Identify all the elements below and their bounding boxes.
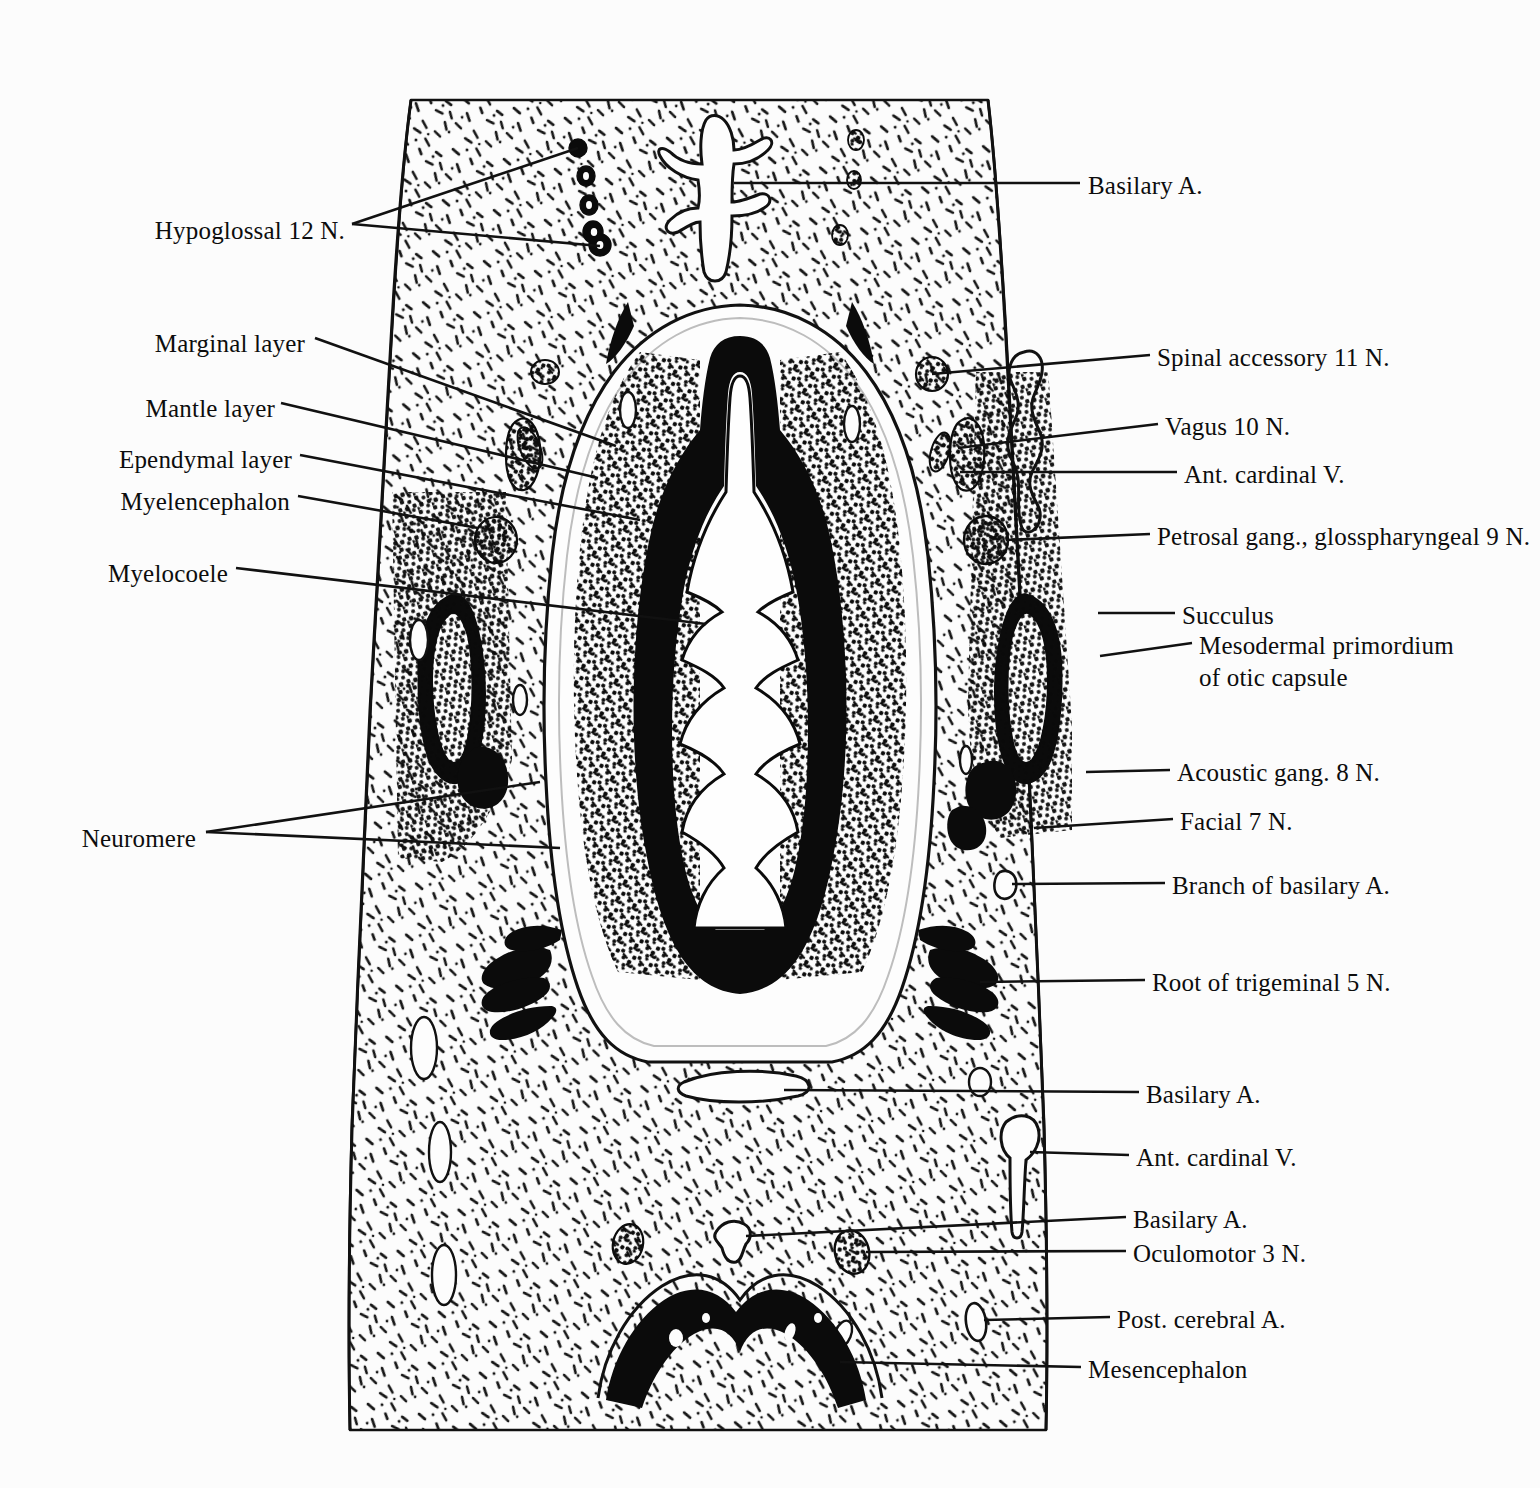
label-petrosal-gang-glosspharyngeal-9-n: Petrosal gang., glosspharyngeal 9 N. xyxy=(1157,522,1530,553)
label-basilary-a-top: Basilary A. xyxy=(1088,171,1203,202)
label-marginal-layer: Marginal layer xyxy=(155,329,305,360)
label-mantle-layer: Mantle layer xyxy=(146,394,275,425)
label-mesodermal-primordium-line2: of otic capsule xyxy=(1199,663,1348,694)
ganglion-vagus-10 xyxy=(950,418,984,490)
label-mesodermal-primordium-line1: Mesodermal primordium xyxy=(1199,631,1454,662)
label-post-cerebral-a: Post. cerebral A. xyxy=(1117,1305,1286,1336)
label-mesencephalon: Mesencephalon xyxy=(1088,1355,1248,1386)
label-vagus-10-n: Vagus 10 N. xyxy=(1165,412,1290,443)
ganglion-petrosal-9 xyxy=(964,516,1008,564)
label-oculomotor-3-n: Oculomotor 3 N. xyxy=(1133,1239,1306,1270)
label-myelencephalon: Myelencephalon xyxy=(121,487,290,518)
label-facial-7-n: Facial 7 N. xyxy=(1180,807,1293,838)
label-root-of-trigeminal-5-n: Root of trigeminal 5 N. xyxy=(1152,968,1391,999)
label-basilary-a-low: Basilary A. xyxy=(1133,1205,1248,1236)
label-succulus: Succulus xyxy=(1182,601,1274,632)
basilary-artery-mid xyxy=(678,1071,809,1102)
ganglion-left-mirror-a xyxy=(475,517,517,563)
label-myelocoele: Myelocoele xyxy=(108,559,228,590)
label-hypoglossal-12-n: Hypoglossal 12 N. xyxy=(155,216,345,247)
label-ependymal-layer: Ependymal layer xyxy=(119,445,292,476)
label-neuromere: Neuromere xyxy=(82,824,196,855)
label-ant-cardinal-v-upper: Ant. cardinal V. xyxy=(1184,460,1345,491)
label-branch-of-basilary-a: Branch of basilary A. xyxy=(1172,871,1390,902)
label-acoustic-gang-8-n: Acoustic gang. 8 N. xyxy=(1177,758,1380,789)
figure-page: Hypoglossal 12 N. Marginal layer Mantle … xyxy=(0,0,1540,1488)
label-basilary-a-mid: Basilary A. xyxy=(1146,1080,1261,1111)
label-spinal-accessory-11-n: Spinal accessory 11 N. xyxy=(1157,343,1390,374)
label-ant-cardinal-v-lower: Ant. cardinal V. xyxy=(1136,1143,1297,1174)
